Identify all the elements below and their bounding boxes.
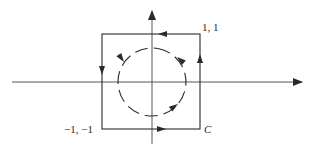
corner-label-top-right: 1, 1: [202, 22, 219, 33]
contour-diagram: 1, 1 −1, −1 C: [0, 0, 309, 153]
arrow-left-icon: [158, 31, 167, 37]
contour-label: C: [204, 124, 211, 135]
arrow-down-icon: [99, 66, 105, 75]
arrow-up-icon: [197, 54, 203, 63]
arrow-right-icon: [157, 126, 166, 132]
corner-label-bottom-left: −1, −1: [64, 124, 93, 135]
diagram-canvas: [0, 0, 309, 153]
